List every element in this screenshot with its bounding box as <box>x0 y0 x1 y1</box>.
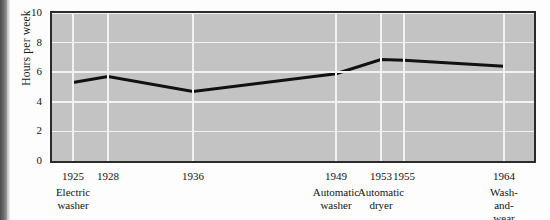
gridline-vertical <box>192 13 194 161</box>
y-tick-label: 2 <box>16 125 42 136</box>
y-tick-label: 8 <box>16 37 42 48</box>
gridline-horizontal <box>52 42 534 44</box>
y-tick-label: 4 <box>16 96 42 107</box>
plot-area <box>50 11 536 163</box>
x-category-caption: Electricwasher <box>56 186 90 212</box>
y-tick-label: 10 <box>16 7 42 18</box>
gridline-horizontal <box>52 101 534 103</box>
caption-line: dryer <box>358 199 404 212</box>
x-tick-label: 1949 <box>325 170 347 182</box>
x-tick-label: 1936 <box>182 170 204 182</box>
x-tick-label: 1964 <box>493 170 515 182</box>
caption-line: Electric <box>56 186 90 199</box>
gridline-horizontal <box>52 13 534 14</box>
x-tick-label: 1928 <box>97 170 119 182</box>
caption-line: wear clothing <box>481 212 527 220</box>
gridline-vertical <box>380 13 382 161</box>
caption-line: washer <box>56 199 90 212</box>
chart-page: Hours per week 0246810 19251928193619491… <box>0 0 550 220</box>
gridline-vertical <box>503 13 505 161</box>
y-tick-label: 0 <box>16 155 42 166</box>
gridline-vertical <box>335 13 337 161</box>
x-tick-label: 1955 <box>393 170 415 182</box>
gridline-vertical <box>72 13 74 161</box>
x-category-caption: Wash-and-wear clothing <box>481 186 527 220</box>
gridline-horizontal <box>52 71 534 73</box>
caption-line: Automatic <box>358 186 404 199</box>
caption-line: washer <box>313 199 359 212</box>
gridline-vertical <box>403 13 405 161</box>
gridline-vertical <box>107 13 109 161</box>
gridline-horizontal <box>52 131 534 133</box>
x-tick-label: 1953 <box>370 170 392 182</box>
data-line-series <box>52 13 534 161</box>
y-tick-label: 6 <box>16 66 42 77</box>
caption-line: Automatic <box>313 186 359 199</box>
plot-inner <box>52 13 534 161</box>
caption-line: Wash-and- <box>481 186 527 212</box>
x-tick-label: 1925 <box>62 170 84 182</box>
x-category-caption: Automaticwasher <box>313 186 359 212</box>
x-category-caption: Automaticdryer <box>358 186 404 212</box>
